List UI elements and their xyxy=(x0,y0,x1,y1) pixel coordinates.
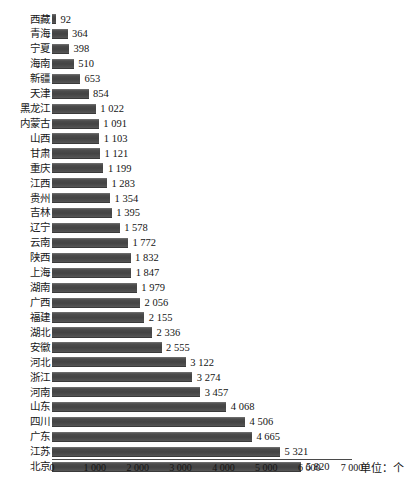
category-label: 浙江 xyxy=(4,370,50,386)
bar-row: 广东4 665 xyxy=(0,429,410,445)
category-label: 海南 xyxy=(4,56,50,72)
bar xyxy=(52,208,112,218)
bar-value-label: 2 336 xyxy=(157,325,181,341)
category-label: 湖北 xyxy=(4,325,50,341)
bar-value-label: 1 832 xyxy=(135,250,159,266)
category-label: 上海 xyxy=(4,265,50,281)
bar-value-label: 510 xyxy=(78,56,94,72)
bar-value-label: 1 847 xyxy=(136,265,160,281)
category-label: 贵州 xyxy=(4,191,50,207)
bar-row: 安徽2 555 xyxy=(0,340,410,356)
bar xyxy=(52,74,80,84)
category-label: 辽宁 xyxy=(4,220,50,236)
bar-row: 浙江3 274 xyxy=(0,370,410,386)
category-label: 河北 xyxy=(4,355,50,371)
bar-value-label: 4 506 xyxy=(250,414,274,430)
bar xyxy=(52,387,200,397)
bar-row: 福建2 155 xyxy=(0,310,410,326)
bar-row: 新疆653 xyxy=(0,71,410,87)
x-tick-label: 5 000 xyxy=(255,461,278,475)
bar-row: 广西2 056 xyxy=(0,295,410,311)
bar xyxy=(52,372,192,382)
bar xyxy=(52,357,186,367)
x-tick-label: 1 000 xyxy=(84,461,107,475)
x-tick-label: 0 xyxy=(50,461,55,475)
category-label: 内蒙古 xyxy=(4,116,50,132)
category-label: 广西 xyxy=(4,295,50,311)
bar xyxy=(52,432,252,442)
bar xyxy=(52,253,131,263)
bar-value-label: 3 274 xyxy=(197,370,221,386)
bar xyxy=(52,238,128,248)
x-tick-label: 3 000 xyxy=(169,461,192,475)
bar-row: 河南3 457 xyxy=(0,385,410,401)
bar xyxy=(52,402,226,412)
category-label: 新疆 xyxy=(4,71,50,87)
bar xyxy=(52,148,100,158)
category-label: 江苏 xyxy=(4,444,50,460)
bar-value-label: 2 155 xyxy=(149,310,173,326)
category-label: 北京 xyxy=(4,459,50,475)
bar-row: 甘肃1 121 xyxy=(0,146,410,162)
bar-value-label: 2 056 xyxy=(145,295,169,311)
bar-value-label: 92 xyxy=(60,12,71,28)
x-tick-label: 4 000 xyxy=(212,461,235,475)
category-label: 四川 xyxy=(4,414,50,430)
bar-row: 山东4 068 xyxy=(0,399,410,415)
bar-row: 江西1 283 xyxy=(0,176,410,192)
bar-value-label: 1 772 xyxy=(132,235,156,251)
category-label: 西藏 xyxy=(4,12,50,28)
bar xyxy=(52,14,56,24)
bar-value-label: 5 321 xyxy=(285,444,309,460)
bar-value-label: 364 xyxy=(72,26,88,42)
x-axis-line xyxy=(52,459,352,460)
bar xyxy=(52,223,120,233)
bar-value-label: 4 665 xyxy=(256,429,280,445)
bar-value-label: 4 068 xyxy=(231,399,255,415)
bar xyxy=(52,59,74,69)
bar-row: 河北3 122 xyxy=(0,355,410,371)
category-label: 湖南 xyxy=(4,280,50,296)
bar xyxy=(52,133,99,143)
bar-value-label: 854 xyxy=(93,86,109,102)
bar xyxy=(52,342,162,352)
bar-value-label: 1 283 xyxy=(111,176,135,192)
bar-row: 宁夏398 xyxy=(0,41,410,57)
bar-value-label: 398 xyxy=(74,41,90,57)
category-label: 重庆 xyxy=(4,161,50,177)
bar-value-label: 1 354 xyxy=(115,191,139,207)
bar-row: 江苏5 321 xyxy=(0,444,410,460)
bar-row: 云南1 772 xyxy=(0,235,410,251)
bar xyxy=(52,298,140,308)
bar-row: 海南510 xyxy=(0,56,410,72)
bar xyxy=(52,193,110,203)
bar-row: 湖北2 336 xyxy=(0,325,410,341)
bar xyxy=(52,29,68,39)
category-label: 吉林 xyxy=(4,205,50,221)
bar-value-label: 1 121 xyxy=(105,146,129,162)
plot-area: 西藏92青海364宁夏398海南510新疆653天津854黑龙江1 022内蒙古… xyxy=(0,0,410,485)
bar-row: 重庆1 199 xyxy=(0,161,410,177)
category-label: 广东 xyxy=(4,429,50,445)
bar-value-label: 653 xyxy=(84,71,100,87)
bar-row: 贵州1 354 xyxy=(0,191,410,207)
category-label: 黑龙江 xyxy=(4,101,50,117)
horizontal-bar-chart: 西藏92青海364宁夏398海南510新疆653天津854黑龙江1 022内蒙古… xyxy=(0,0,410,485)
category-label: 河南 xyxy=(4,385,50,401)
category-label: 山东 xyxy=(4,399,50,415)
bar xyxy=(52,163,103,173)
category-label: 青海 xyxy=(4,26,50,42)
category-label: 山西 xyxy=(4,131,50,147)
bar-value-label: 1 395 xyxy=(116,205,140,221)
bar-value-label: 3 122 xyxy=(190,355,214,371)
bar xyxy=(52,283,137,293)
bar-value-label: 1 103 xyxy=(104,131,128,147)
bar-row: 内蒙古1 091 xyxy=(0,116,410,132)
bar-row: 湖南1 979 xyxy=(0,280,410,296)
bar xyxy=(52,447,280,457)
category-label: 陕西 xyxy=(4,250,50,266)
category-label: 福建 xyxy=(4,310,50,326)
bar-row: 黑龙江1 022 xyxy=(0,101,410,117)
bar-value-label: 3 457 xyxy=(205,385,229,401)
bar-row: 上海1 847 xyxy=(0,265,410,281)
